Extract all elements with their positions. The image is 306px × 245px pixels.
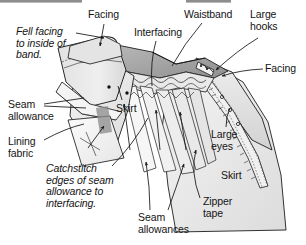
label-skirt-left: Skirt (116, 103, 137, 115)
top-rule (0, 0, 231, 3)
label-seam-allowance: Seam allowance (8, 99, 54, 122)
illustration-page: Facing Interfacing Waistband Large hooks… (0, 0, 306, 245)
leader-fell-facing (76, 33, 104, 38)
label-seam-allowances: Seam allowances (138, 212, 189, 235)
label-large-hooks: Large hooks (250, 9, 278, 32)
label-facing-right: Facing (265, 63, 296, 75)
label-interfacing: Interfacing (134, 27, 182, 39)
label-zipper-tape: Zipper tape (203, 196, 232, 219)
label-fell-facing-note: Fell facing to inside of band. (16, 26, 66, 61)
label-skirt-right: Skirt (221, 170, 242, 182)
label-lining-fabric: Lining fabric (8, 136, 35, 159)
label-facing-top: Facing (88, 9, 119, 21)
label-waistband: Waistband (184, 9, 232, 21)
seam-allowance-strips (124, 86, 216, 174)
label-catchstitch-note: Catchstitch edges of seam allowance to i… (46, 163, 114, 209)
label-large-eyes: Large eyes (211, 129, 237, 152)
leader-large-hooks (216, 38, 258, 70)
